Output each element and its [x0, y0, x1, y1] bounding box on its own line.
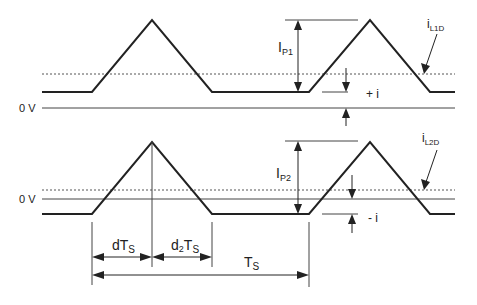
dts-label: dTS: [112, 237, 135, 255]
ip2-label: IP2: [276, 165, 291, 183]
ip1-label: IP1: [278, 39, 293, 57]
bottom-zero-label: 0 V: [19, 193, 36, 205]
waveform-diagram: 0 V IP1 + i iL1D 0 V IP2: [0, 0, 477, 305]
bottom-trace: 0 V IP2 - i iL2D: [19, 131, 455, 233]
il1d-label: iL1D: [427, 17, 445, 33]
il2d-label: iL2D: [422, 131, 440, 147]
top-current-waveform: [42, 20, 455, 92]
top-zero-label: 0 V: [19, 102, 36, 114]
bottom-current-waveform: [42, 142, 455, 214]
minus-i-label: - i: [368, 211, 378, 225]
ts-label: TS: [244, 254, 260, 272]
d2ts-label: d2TS: [171, 237, 199, 255]
plus-i-label: + i: [366, 87, 379, 101]
top-trace: 0 V IP1 + i iL1D: [19, 17, 455, 126]
